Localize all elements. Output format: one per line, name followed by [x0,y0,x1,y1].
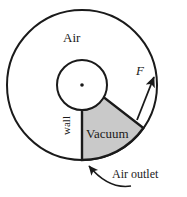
vacuum-drum-figure: Air Vacuum wall Air outlet F [0,0,187,197]
label-air: Air [63,31,80,44]
center-dot-icon [80,83,84,87]
label-air-outlet: Air outlet [112,168,158,180]
label-vacuum: Vacuum [86,127,129,140]
label-force-f: F [136,64,144,77]
label-wall: wall [61,116,72,135]
figure-canvas [0,0,187,197]
